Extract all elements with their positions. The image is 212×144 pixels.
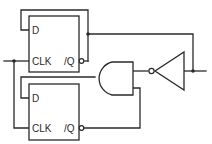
top-ff-qbar-bubble — [79, 59, 84, 64]
bottom-ff-qbar-bubble — [79, 126, 84, 131]
top-ff-d-label: D — [32, 25, 39, 36]
bottom-ff-clk-label: CLK — [32, 123, 52, 134]
inverter-gate — [149, 52, 184, 90]
bottom-ff-qbar-label: /Q — [64, 123, 75, 134]
flipflop-top: D CLK /Q — [29, 16, 84, 72]
output-junction-dot — [191, 69, 195, 73]
top-ff-clk-label: CLK — [32, 56, 52, 67]
logic-circuit-diagram: D CLK /Q D CLK /Q — [0, 0, 212, 144]
clock-junction-dot — [12, 59, 16, 63]
and-gate — [99, 62, 133, 95]
top-ff-qbar-label: /Q — [64, 56, 75, 67]
inverter-bubble — [149, 68, 154, 73]
junction-dot — [86, 32, 90, 36]
flipflop-bottom: D CLK /Q — [29, 84, 84, 140]
bottom-ff-d-label: D — [32, 93, 39, 104]
